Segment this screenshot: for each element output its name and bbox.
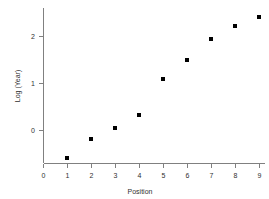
x-tick-label-0: 0 [42, 172, 46, 179]
data-point-9 [257, 15, 261, 19]
y-tick-label-1: 1 [31, 80, 35, 87]
x-tick-label-5: 5 [162, 172, 166, 179]
x-tick-label-9: 9 [258, 172, 262, 179]
y-tick-label-0: 0 [31, 127, 35, 134]
data-point-1 [65, 156, 69, 160]
data-point-7 [209, 37, 213, 41]
x-axis-tick-labels: 0 1 2 3 4 5 6 7 8 9 [42, 172, 262, 179]
y-axis-ticks [39, 37, 44, 131]
y-axis-tick-labels: 0 1 2 [31, 33, 35, 134]
data-point-3 [113, 126, 117, 130]
data-point-8 [233, 24, 237, 28]
x-tick-label-3: 3 [114, 172, 118, 179]
plot-canvas: 0 1 2 0 1 2 3 4 5 6 7 8 9 [0, 0, 269, 199]
x-tick-label-7: 7 [210, 172, 214, 179]
x-axis-title: Position [128, 188, 153, 195]
x-tick-label-1: 1 [66, 172, 70, 179]
x-tick-label-6: 6 [186, 172, 190, 179]
data-point-6 [185, 58, 189, 62]
x-tick-label-2: 2 [90, 172, 94, 179]
y-axis-title: Log (Year) [14, 70, 22, 102]
x-axis-ticks [44, 164, 260, 169]
data-points [65, 15, 261, 160]
data-point-4 [137, 113, 141, 117]
x-tick-label-8: 8 [234, 172, 238, 179]
y-tick-label-2: 2 [31, 33, 35, 40]
data-point-2 [89, 137, 93, 141]
data-point-5 [161, 77, 165, 81]
x-tick-label-4: 4 [138, 172, 142, 179]
scatter-plot-figure: 0 1 2 0 1 2 3 4 5 6 7 8 9 [0, 0, 269, 199]
